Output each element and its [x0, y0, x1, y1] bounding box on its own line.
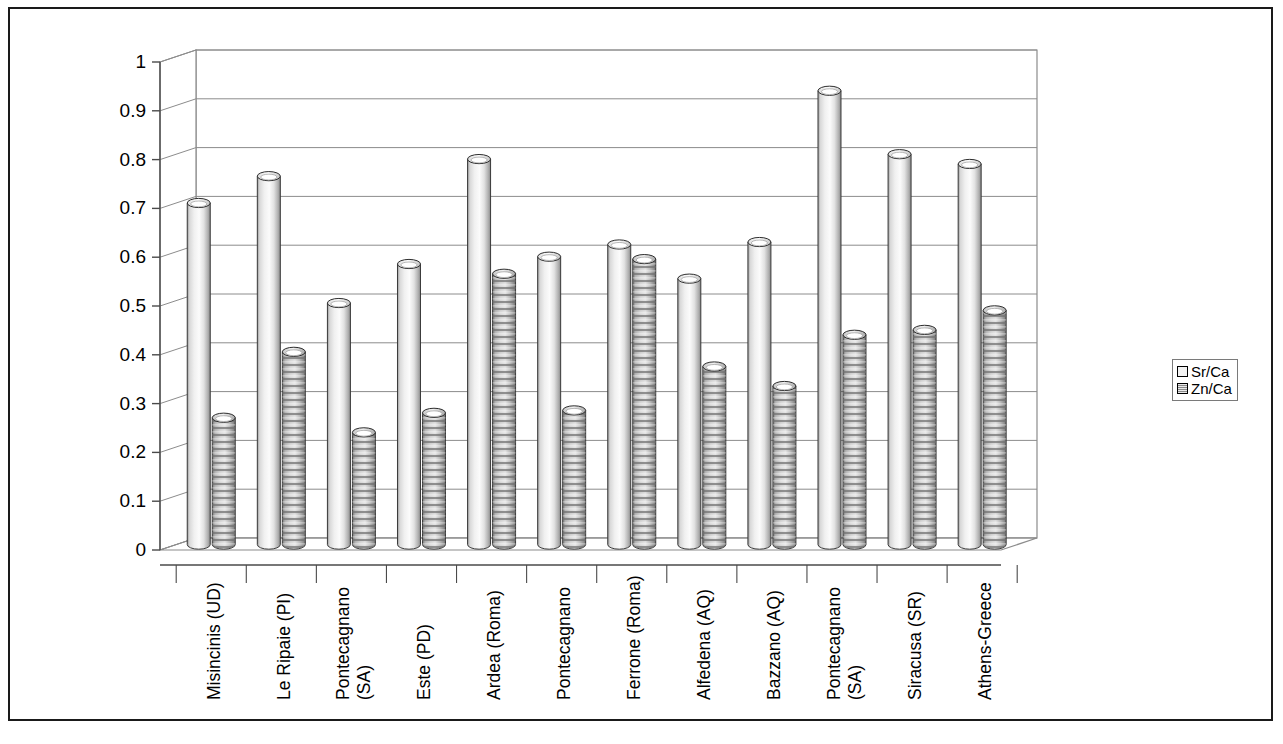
- bar-sr-ca: [538, 252, 561, 549]
- y-tick-label: 0.8: [96, 150, 146, 169]
- x-category-label: Le Ripaie (PI): [274, 550, 295, 700]
- bar-zn-ca: [563, 406, 586, 549]
- y-tick-label: 0.5: [96, 296, 146, 315]
- bar-zn-ca: [352, 428, 375, 549]
- x-category-label: Athens-Greece: [975, 550, 996, 700]
- bar-sr-ca: [187, 198, 210, 549]
- y-axis: [152, 62, 160, 550]
- bar-zn-ca: [212, 413, 235, 549]
- legend-entry-zn-ca: Zn/Ca: [1177, 380, 1233, 397]
- legend-label-sr-ca: Sr/Ca: [1191, 364, 1229, 379]
- x-category-label: Pontecagnano (SA): [333, 550, 375, 700]
- x-category-label: Pontecagnano (SA): [824, 550, 866, 700]
- y-tick-label: 0.6: [96, 247, 146, 266]
- bar-sr-ca: [748, 237, 771, 549]
- x-category-label: Misincinis (UD): [204, 550, 225, 700]
- bar-zn-ca: [983, 306, 1006, 549]
- bar-sr-ca: [397, 259, 420, 549]
- bar-sr-ca: [327, 298, 350, 549]
- bar-sr-ca: [888, 150, 911, 550]
- chart-canvas: 00.10.20.30.40.50.60.70.80.91 Misincinis…: [0, 0, 1283, 744]
- y-tick-label: 1: [96, 52, 146, 71]
- x-category-label: Ferrone (Roma): [624, 550, 645, 700]
- bar-sr-ca: [468, 154, 491, 549]
- legend-entry-sr-ca: Sr/Ca: [1177, 363, 1233, 380]
- chart-page: 00.10.20.30.40.50.60.70.80.91 Misincinis…: [0, 0, 1283, 744]
- legend-swatch-zn-ca-icon: [1177, 383, 1188, 394]
- y-tick-label: 0.4: [96, 345, 146, 364]
- bar-sr-ca: [818, 86, 841, 549]
- x-category-label: Alfedena (AQ): [694, 550, 715, 700]
- x-category-label: Este (PD): [414, 550, 435, 700]
- x-category-label: Pontecagnano: [554, 550, 575, 700]
- bar-zn-ca: [282, 347, 305, 549]
- x-category-label: Bazzano (AQ): [764, 550, 785, 700]
- y-tick-label: 0.3: [96, 394, 146, 413]
- bar-zn-ca: [843, 330, 866, 549]
- y-tick-label: 0: [96, 540, 146, 559]
- y-tick-label: 0.9: [96, 101, 146, 120]
- chart-legend: Sr/Ca Zn/Ca: [1172, 359, 1238, 401]
- y-tick-label: 0.7: [96, 198, 146, 217]
- bar-sr-ca: [608, 240, 631, 549]
- bar-sr-ca: [958, 159, 981, 549]
- bar-zn-ca: [422, 408, 445, 549]
- x-category-label: Siracusa (SR): [905, 550, 926, 700]
- legend-label-zn-ca: Zn/Ca: [1191, 381, 1232, 396]
- bar-sr-ca: [257, 172, 280, 550]
- y-tick-label: 0.1: [96, 491, 146, 510]
- bar-zn-ca: [773, 381, 796, 549]
- bar-zn-ca: [493, 269, 516, 549]
- bar-zn-ca: [913, 325, 936, 549]
- legend-swatch-sr-ca-icon: [1177, 366, 1188, 377]
- bar-zn-ca: [703, 362, 726, 549]
- bar-sr-ca: [678, 274, 701, 549]
- y-tick-label: 0.2: [96, 442, 146, 461]
- x-category-label: Ardea (Roma): [484, 550, 505, 700]
- bar-zn-ca: [633, 255, 656, 550]
